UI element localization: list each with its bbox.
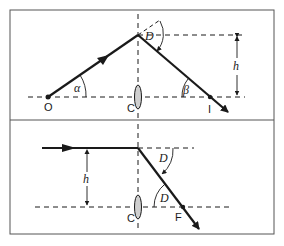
object-point: [46, 95, 51, 100]
label-beta: β: [182, 83, 189, 97]
label-deviation-upper: D: [158, 151, 168, 165]
label-object: O: [44, 101, 53, 113]
label-h-bottom: h: [83, 172, 89, 186]
lens-icon: [135, 85, 142, 109]
lens-deviation-diagram: O C I α β D h C F D D h: [0, 0, 284, 246]
top-panel: O C I α β D h: [28, 14, 245, 118]
h-arrow-up-icon: [235, 36, 240, 41]
focused-ray: [138, 148, 199, 229]
outer-frame: [10, 10, 274, 234]
focus-point: [181, 205, 185, 209]
label-focus: F: [175, 211, 182, 223]
label-image: I: [208, 103, 211, 115]
deviation-arc-top: [157, 21, 163, 51]
bottom-panel: C F D D h: [35, 124, 232, 232]
label-lens-center-bottom: C: [127, 212, 135, 224]
ray-direction-arrow-icon: [62, 144, 76, 152]
label-deviation-top: D: [144, 29, 154, 43]
label-h-top: h: [233, 59, 239, 73]
image-point: [208, 95, 212, 99]
ray-direction-arrow-icon: [97, 55, 109, 65]
refracted-ray: [138, 35, 228, 112]
lens-icon: [135, 195, 142, 219]
alpha-arc: [80, 75, 86, 97]
incident-ray: [48, 35, 138, 97]
label-lens-center-top: C: [127, 102, 135, 114]
h-arrow-up-icon: [85, 149, 90, 154]
label-deviation-lower: D: [159, 191, 169, 205]
label-alpha: α: [74, 81, 81, 95]
